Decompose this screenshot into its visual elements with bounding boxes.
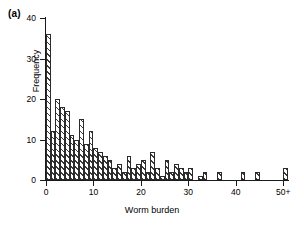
y-tick-mark	[40, 180, 45, 181]
x-tick-label: 10	[78, 188, 108, 197]
x-tick-label: 50+	[268, 188, 298, 197]
x-tick-mark	[188, 181, 189, 186]
figure-panel-a: (a) 010203040 01020304050+ Frequency Wor…	[0, 0, 304, 226]
x-axis-line	[45, 180, 289, 181]
x-tick-label: 20	[126, 188, 156, 197]
y-tick-mark	[40, 18, 45, 19]
x-tick-mark	[283, 181, 284, 186]
y-tick-mark	[40, 140, 45, 141]
x-tick-mark	[46, 181, 47, 186]
histogram-bar	[188, 168, 193, 180]
y-tick-label: 10	[2, 136, 36, 144]
x-tick-label: 30	[173, 188, 203, 197]
y-tick-label: 40	[2, 14, 36, 22]
x-tick-label: 0	[31, 188, 61, 197]
y-axis-title: Frequency	[31, 31, 41, 111]
x-tick-mark	[141, 181, 142, 186]
histogram-bar	[203, 172, 208, 180]
x-tick-mark	[236, 181, 237, 186]
histogram-bar	[217, 172, 222, 180]
histogram-bar	[283, 168, 288, 180]
x-tick-mark	[93, 181, 94, 186]
histogram-bar	[241, 172, 246, 180]
histogram-bars	[46, 18, 288, 180]
y-tick-label: 0	[2, 176, 36, 184]
histogram-bar	[255, 172, 260, 180]
x-tick-label: 40	[221, 188, 251, 197]
x-axis-title: Worm burden	[0, 205, 304, 215]
